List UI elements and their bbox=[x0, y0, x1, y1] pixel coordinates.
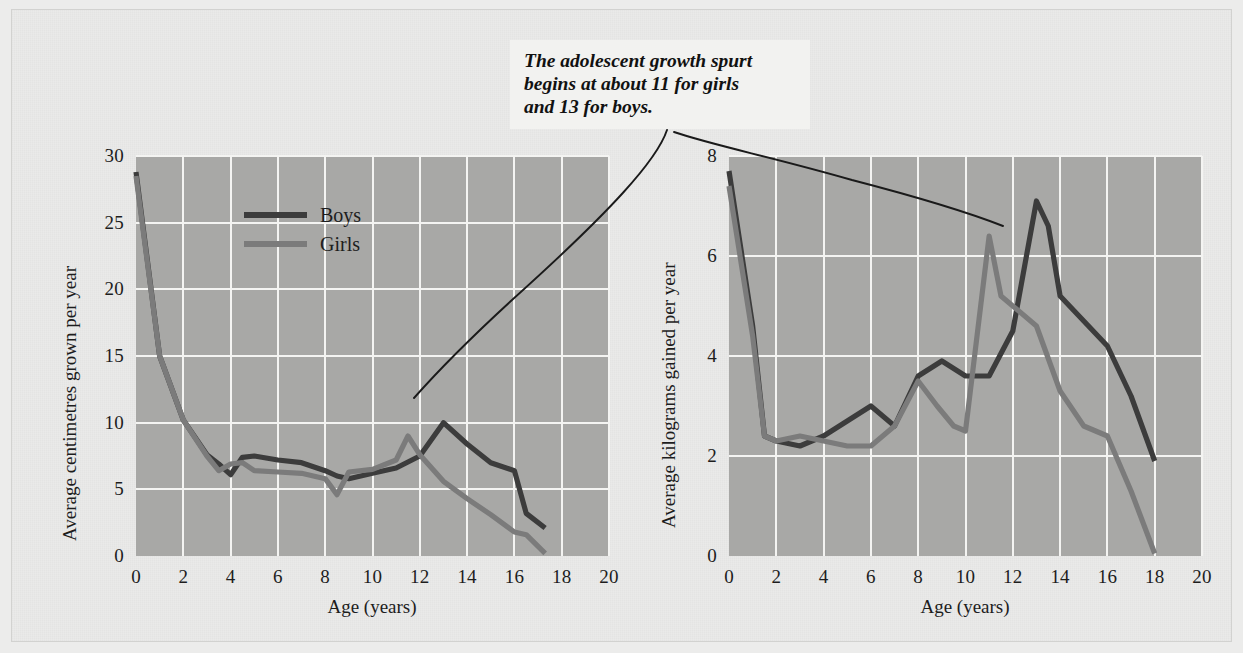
x-tick-label: 20 bbox=[599, 566, 618, 588]
plot-area-left bbox=[136, 156, 609, 556]
x-tick-label: 12 bbox=[410, 566, 429, 588]
x-tick-label: 18 bbox=[1145, 566, 1164, 588]
lines-left bbox=[136, 156, 609, 556]
x-axis-title-left: Age (years) bbox=[327, 596, 416, 618]
legend-entry-boys: Boys bbox=[244, 200, 361, 229]
lines-right bbox=[729, 156, 1202, 556]
x-tick-label: 8 bbox=[320, 566, 330, 588]
y-tick-label: 25 bbox=[76, 212, 124, 234]
x-tick-label: 2 bbox=[771, 566, 781, 588]
y-tick-label: 20 bbox=[76, 278, 124, 300]
x-tick-label: 10 bbox=[363, 566, 382, 588]
plot-area-right bbox=[729, 156, 1202, 556]
annotation-line-3: and 13 for boys. bbox=[524, 95, 796, 118]
x-tick-label: 0 bbox=[724, 566, 734, 588]
x-tick-label: 20 bbox=[1192, 566, 1211, 588]
legend-entry-girls: Girls bbox=[244, 229, 361, 258]
figure-panel: 051015202530 02468101214161820 Age (year… bbox=[11, 9, 1232, 642]
x-tick-label: 14 bbox=[1050, 566, 1069, 588]
annotation-line-1: The adolescent growth spurt bbox=[524, 49, 796, 72]
x-tick-label: 6 bbox=[866, 566, 876, 588]
x-tick-label: 4 bbox=[819, 566, 829, 588]
series-line-boys bbox=[729, 171, 1155, 461]
y-tick-label: 8 bbox=[669, 145, 717, 167]
x-tick-label: 18 bbox=[552, 566, 571, 588]
x-tick-label: 4 bbox=[226, 566, 236, 588]
y-tick-label: 30 bbox=[76, 145, 124, 167]
x-tick-label: 8 bbox=[913, 566, 923, 588]
x-tick-label: 14 bbox=[457, 566, 476, 588]
x-axis-title-right: Age (years) bbox=[920, 596, 1009, 618]
y-tick-label: 0 bbox=[669, 545, 717, 567]
x-tick-label: 6 bbox=[273, 566, 283, 588]
x-tick-label: 16 bbox=[505, 566, 524, 588]
annotation-callout: The adolescent growth spurt begins at ab… bbox=[510, 40, 810, 129]
x-tick-label: 0 bbox=[131, 566, 141, 588]
x-tick-label: 2 bbox=[178, 566, 188, 588]
x-tick-label: 10 bbox=[956, 566, 975, 588]
y-axis-title-left: Average centimetres grown per year bbox=[59, 266, 81, 541]
legend-label-boys: Boys bbox=[320, 205, 361, 225]
legend-swatch-girls bbox=[244, 241, 307, 247]
legend-label-girls: Girls bbox=[320, 234, 360, 254]
legend-left: Boys Girls bbox=[244, 200, 361, 258]
y-axis-title-right: Average kilograms gained per year bbox=[658, 262, 680, 528]
x-tick-label: 12 bbox=[1003, 566, 1022, 588]
y-tick-label: 0 bbox=[76, 545, 124, 567]
y-tick-label: 5 bbox=[76, 478, 124, 500]
y-tick-label: 10 bbox=[76, 412, 124, 434]
series-line-girls bbox=[729, 186, 1155, 554]
legend-swatch-boys bbox=[244, 212, 307, 218]
x-tick-label: 16 bbox=[1098, 566, 1117, 588]
annotation-line-2: begins at about 11 for girls bbox=[524, 72, 796, 95]
y-tick-label: 15 bbox=[76, 345, 124, 367]
